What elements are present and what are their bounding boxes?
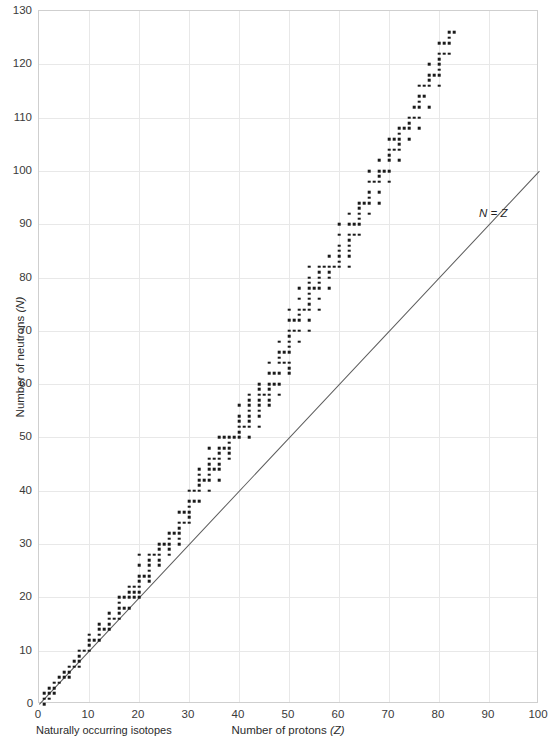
data-point [438, 42, 441, 45]
data-point [268, 394, 271, 397]
data-point [438, 52, 441, 55]
y-axis-tick-label: 20 [19, 590, 32, 602]
data-point [73, 665, 76, 668]
data-point [238, 426, 241, 429]
gridline-horizontal [39, 224, 537, 225]
data-point [398, 143, 401, 146]
data-point [348, 266, 351, 269]
data-point [158, 564, 161, 567]
data-point [378, 170, 381, 173]
data-point [188, 489, 191, 492]
x-axis-tick-label: 50 [282, 708, 295, 720]
y-axis-tick-label: 130 [13, 4, 32, 16]
data-point [283, 351, 286, 354]
data-point [123, 607, 126, 610]
data-point [358, 218, 361, 221]
data-point [258, 388, 261, 391]
data-point [423, 84, 426, 87]
data-point [298, 330, 301, 333]
gridline-horizontal [39, 171, 537, 172]
data-point [438, 84, 441, 87]
data-point [178, 537, 181, 540]
data-point [68, 671, 71, 674]
data-point [328, 287, 331, 290]
data-point [268, 399, 271, 402]
data-point [413, 106, 416, 109]
data-point [398, 159, 401, 162]
data-point [288, 367, 291, 370]
data-point [178, 543, 181, 546]
data-point [298, 308, 301, 311]
y-axis-tick-label: 0 [27, 697, 33, 709]
data-point [208, 489, 211, 492]
data-point [158, 553, 161, 556]
gridline-horizontal [39, 597, 537, 598]
data-point [288, 330, 291, 333]
data-point [378, 180, 381, 183]
y-axis-tick-label: 120 [13, 57, 32, 69]
y-axis-tick-label: 40 [19, 484, 32, 496]
n-equals-z-annotation: N = Z [479, 207, 507, 219]
data-point [48, 692, 51, 695]
data-point [258, 404, 261, 407]
data-point [128, 591, 131, 594]
data-point [388, 148, 391, 151]
data-point [198, 500, 201, 503]
data-point [118, 601, 121, 604]
gridline-horizontal [39, 278, 537, 279]
data-point [228, 457, 231, 460]
data-point [113, 617, 116, 620]
data-point [108, 628, 111, 631]
data-point [388, 138, 391, 141]
data-point [308, 292, 311, 295]
data-point [248, 399, 251, 402]
data-point [288, 362, 291, 365]
data-point [218, 457, 221, 460]
data-point [128, 585, 131, 588]
data-point [368, 212, 371, 215]
x-axis-tick-label: 70 [382, 708, 395, 720]
data-point [98, 639, 101, 642]
data-point [228, 436, 231, 439]
data-point [203, 479, 206, 482]
data-point [168, 548, 171, 551]
gridline-horizontal [39, 651, 537, 652]
data-point [268, 362, 271, 365]
data-point [53, 681, 56, 684]
data-point [338, 244, 341, 247]
y-axis-tick-label: 10 [19, 644, 32, 656]
data-point [213, 457, 216, 460]
data-point [223, 436, 226, 439]
x-axis-tick-label: 60 [332, 708, 345, 720]
data-point [63, 676, 66, 679]
data-point [63, 671, 66, 674]
data-point [148, 569, 151, 572]
data-point [183, 511, 186, 514]
data-point [53, 692, 56, 695]
data-point [208, 473, 211, 476]
x-axis-tick-label: 20 [132, 708, 145, 720]
data-point [173, 532, 176, 535]
data-point [198, 489, 201, 492]
data-point [168, 537, 171, 540]
data-point [208, 463, 211, 466]
data-point [138, 596, 141, 599]
data-point [268, 383, 271, 386]
data-point [308, 298, 311, 301]
data-point [158, 548, 161, 551]
data-point [83, 649, 86, 652]
data-point [233, 436, 236, 439]
data-point [368, 170, 371, 173]
data-point [288, 340, 291, 343]
x-axis-title: Number of protons (Z) [231, 724, 344, 736]
data-point [428, 84, 431, 87]
data-point [118, 607, 121, 610]
data-point [43, 692, 46, 695]
data-point [303, 308, 306, 311]
data-point [138, 580, 141, 583]
data-point [438, 74, 441, 77]
data-point [313, 287, 316, 290]
data-point [88, 649, 91, 652]
data-point [448, 42, 451, 45]
data-point [338, 266, 341, 269]
